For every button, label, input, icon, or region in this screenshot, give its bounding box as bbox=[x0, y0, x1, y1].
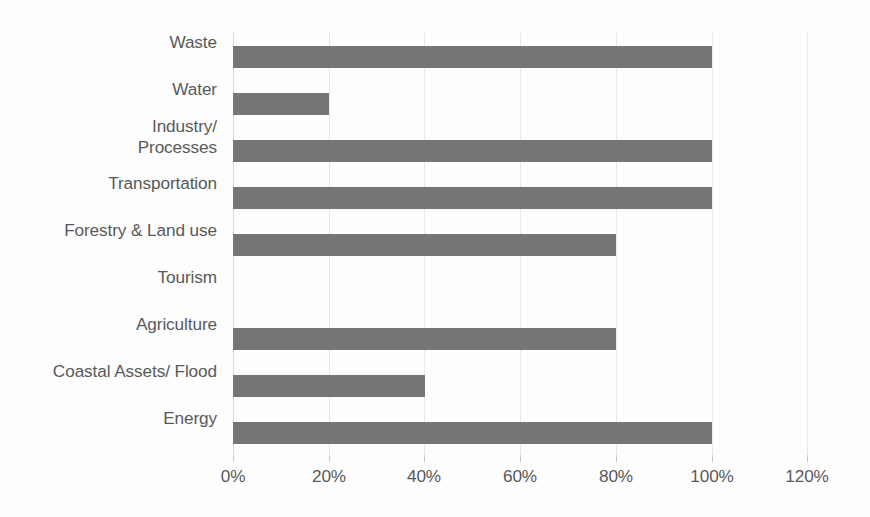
category-label-tourism: Tourism bbox=[0, 267, 226, 288]
bar-forestry-land-use bbox=[233, 234, 616, 256]
tick-mark-0 bbox=[233, 455, 234, 462]
bar-waste bbox=[233, 46, 712, 68]
category-label-coastal-assets-flood: Coastal Assets/ Flood bbox=[0, 361, 226, 382]
category-label-agriculture: Agriculture bbox=[0, 314, 226, 335]
tick-label-40: 40% bbox=[384, 466, 464, 487]
tick-mark-20 bbox=[329, 455, 330, 462]
tick-mark-60 bbox=[520, 455, 521, 462]
tick-label-0: 0% bbox=[193, 466, 273, 487]
bar-chart: Waste Water Industry/ Processes Transpor… bbox=[0, 0, 870, 517]
tick-label-20: 20% bbox=[289, 466, 369, 487]
value-axis: 0% 20% 40% 60% 80% 100% 120% bbox=[233, 455, 808, 517]
bar-transportation bbox=[233, 187, 712, 209]
gridline-120 bbox=[807, 32, 808, 455]
tick-mark-120 bbox=[807, 455, 808, 462]
tick-label-120: 120% bbox=[767, 466, 847, 487]
tick-label-80: 80% bbox=[576, 466, 656, 487]
tick-mark-80 bbox=[616, 455, 617, 462]
category-label-forestry-land-use: Forestry & Land use bbox=[0, 220, 226, 241]
bar-agriculture bbox=[233, 328, 616, 350]
tick-mark-100 bbox=[712, 455, 713, 462]
category-label-water: Water bbox=[0, 79, 226, 100]
tick-mark-40 bbox=[424, 455, 425, 462]
bar-industry-processes bbox=[233, 140, 712, 162]
category-label-transportation: Transportation bbox=[0, 173, 226, 194]
category-axis: Waste Water Industry/ Processes Transpor… bbox=[0, 32, 226, 455]
tick-label-60: 60% bbox=[480, 466, 560, 487]
plot-area bbox=[233, 32, 808, 455]
category-label-energy: Energy bbox=[0, 408, 226, 429]
category-label-waste: Waste bbox=[0, 32, 226, 53]
bar-energy bbox=[233, 422, 712, 444]
bar-coastal-assets-flood bbox=[233, 375, 425, 397]
bar-water bbox=[233, 93, 329, 115]
gridline-100 bbox=[712, 32, 713, 455]
tick-label-100: 100% bbox=[672, 466, 752, 487]
category-label-industry-processes: Industry/ Processes bbox=[0, 116, 226, 157]
